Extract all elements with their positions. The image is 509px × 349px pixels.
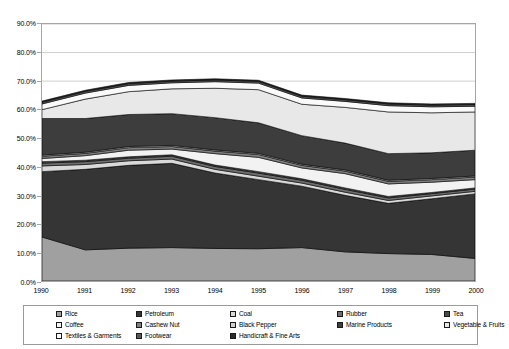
legend-swatch-icon bbox=[56, 311, 62, 317]
legend-item-label: Handicraft & Fine Arts bbox=[239, 332, 300, 340]
x-axis-tick-label: 2000 bbox=[468, 287, 483, 295]
x-axis-tick-label: 1992 bbox=[120, 287, 135, 295]
legend-item[interactable]: Petroleum bbox=[136, 308, 230, 319]
legend-swatch-icon bbox=[444, 322, 450, 328]
legend-swatch-icon bbox=[230, 333, 236, 339]
legend-swatch-icon bbox=[230, 322, 236, 328]
x-axis-tick-label: 1997 bbox=[338, 287, 353, 295]
legend-swatch-icon bbox=[136, 311, 142, 317]
legend-item[interactable]: Handicraft & Fine Arts bbox=[230, 330, 337, 341]
y-axis-tick-label: 30.0% bbox=[17, 192, 36, 199]
legend-swatch-icon bbox=[56, 333, 62, 339]
legend-item[interactable]: Cashew Nut bbox=[136, 319, 230, 330]
x-axis-tick-label: 1996 bbox=[294, 287, 309, 295]
legend-item-label: Coal bbox=[239, 310, 252, 318]
y-axis-tick-label: 10.0% bbox=[17, 250, 36, 257]
x-axis: 1990199119921993199419951996199719981999… bbox=[41, 283, 476, 299]
legend-item-label: Tea bbox=[453, 310, 463, 318]
y-axis: 0.0%10.0%20.0%30.0%40.0%50.0%60.0%70.0%8… bbox=[0, 23, 41, 282]
legend-item[interactable]: Rubber bbox=[337, 308, 444, 319]
legend-swatch-icon bbox=[337, 311, 343, 317]
y-axis-tick-label: 0.0% bbox=[20, 279, 36, 286]
legend-item[interactable]: Tea bbox=[444, 308, 509, 319]
y-axis-tick-label: 90.0% bbox=[17, 20, 36, 27]
y-axis-tick-label: 70.0% bbox=[17, 77, 36, 84]
legend-item-label: Vegetable & Fruits bbox=[453, 321, 504, 329]
x-axis-tick-label: 1994 bbox=[207, 287, 222, 295]
legend-swatch-icon bbox=[230, 311, 236, 317]
x-axis-tick-label: 1993 bbox=[164, 287, 179, 295]
legend-item-label: Black Pepper bbox=[239, 321, 276, 329]
legend-item-label: Coffee bbox=[65, 321, 83, 329]
legend-item[interactable]: Textiles & Garments bbox=[56, 330, 136, 341]
legend-item-label: Textiles & Garments bbox=[65, 332, 121, 340]
x-axis-tick-label: 1990 bbox=[33, 287, 48, 295]
y-axis-tick-label: 60.0% bbox=[17, 106, 36, 113]
legend-item[interactable]: Black Pepper bbox=[230, 319, 337, 330]
x-axis-tick-label: 1998 bbox=[381, 287, 396, 295]
legend-items: RicePetroleumCoalRubberTeaCoffeeCashew N… bbox=[56, 308, 509, 341]
legend-swatch-icon bbox=[444, 311, 450, 317]
plot-area bbox=[41, 23, 476, 282]
x-axis-tick-label: 1999 bbox=[425, 287, 440, 295]
y-axis-tick-label: 50.0% bbox=[17, 135, 36, 142]
legend-item-label: Petroleum bbox=[145, 310, 174, 318]
y-axis-tick-label: 20.0% bbox=[17, 221, 36, 228]
legend-swatch-icon bbox=[56, 322, 62, 328]
stacked-area-chart bbox=[42, 24, 475, 281]
legend-item-label: Marine Products bbox=[346, 321, 392, 329]
legend-item[interactable]: Rice bbox=[56, 308, 136, 319]
legend-item[interactable]: Vegetable & Fruits bbox=[444, 319, 509, 330]
legend-item[interactable]: Footwear bbox=[136, 330, 230, 341]
legend-item[interactable]: Coffee bbox=[56, 319, 136, 330]
legend-swatch-icon bbox=[136, 333, 142, 339]
legend-item-label: Rice bbox=[65, 310, 78, 318]
x-axis-tick-label: 1995 bbox=[251, 287, 266, 295]
x-axis-tick-label: 1991 bbox=[77, 287, 92, 295]
y-axis-tick-label: 40.0% bbox=[17, 163, 36, 170]
legend-item[interactable]: Coal bbox=[230, 308, 337, 319]
y-axis-tick-label: 80.0% bbox=[17, 48, 36, 55]
legend-item-label: Rubber bbox=[346, 310, 367, 318]
chart-legend: RicePetroleumCoalRubberTeaCoffeeCashew N… bbox=[23, 305, 478, 345]
legend-item-label: Cashew Nut bbox=[145, 321, 179, 329]
legend-swatch-icon bbox=[337, 322, 343, 328]
legend-item-label: Footwear bbox=[145, 332, 171, 340]
legend-swatch-icon bbox=[136, 322, 142, 328]
legend-item[interactable]: Marine Products bbox=[337, 319, 444, 330]
